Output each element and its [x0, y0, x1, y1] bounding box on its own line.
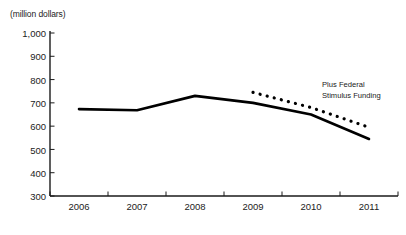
chart-container: (million dollars) 1,000 900 800 700 600 … — [0, 0, 406, 235]
series-line-base-funding — [79, 96, 369, 139]
axis-lines — [50, 31, 398, 196]
series-line-stimulus-funding — [253, 92, 369, 127]
plot-area — [0, 0, 406, 235]
